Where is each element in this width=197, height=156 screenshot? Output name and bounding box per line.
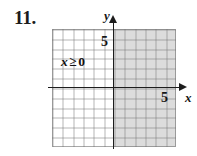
grid-border [52,29,176,147]
inequality-value: 0 [78,54,85,69]
coordinate-graph: y x 5 5 x≥0 [52,29,176,147]
problem-number: 11. [14,8,36,27]
x-axis-tick-label-5: 5 [161,91,168,105]
y-axis-tick-label-5: 5 [101,35,108,49]
y-axis-arrow-icon [109,15,117,23]
x-axis-line [48,87,182,88]
inequality-variable: x [61,54,68,69]
x-axis-label: x [185,91,192,104]
exercise-figure: 11. y x 5 5 x≥0 [0,0,197,156]
inequality-annotation: x≥0 [61,55,85,69]
y-axis-line [113,17,114,149]
y-axis-label: y [104,9,110,22]
inequality-relation: ≥ [68,54,78,69]
